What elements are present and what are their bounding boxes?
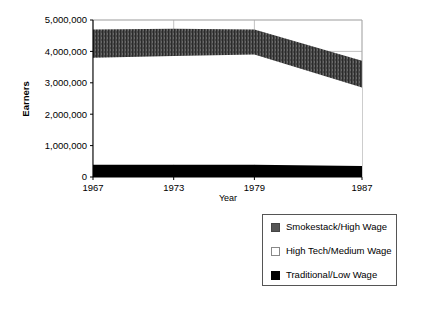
y-tick-label: 1,000,000 <box>45 140 87 151</box>
x-tick-label: 1979 <box>244 182 265 193</box>
legend-label-smokestack: Smokestack/High Wage <box>286 222 387 232</box>
legend-item-high-tech: High Tech/Medium Wage <box>263 239 396 263</box>
x-axis-title: Year <box>219 193 237 203</box>
legend-swatch-traditional-icon <box>271 271 280 280</box>
legend-label-traditional: Traditional/Low Wage <box>286 270 377 280</box>
legend-swatch-smokestack-icon <box>271 223 280 232</box>
y-axis-title: Earners <box>20 81 31 116</box>
chart-legend: Smokestack/High Wage High Tech/Medium Wa… <box>262 214 397 286</box>
legend-item-traditional: Traditional/Low Wage <box>263 263 396 287</box>
y-tick-label: 0 <box>82 171 87 182</box>
band-traditional-low-wage <box>93 165 362 177</box>
y-axis-ticks: 01,000,0002,000,0003,000,0004,000,0005,0… <box>45 14 93 182</box>
x-tick-label: 1987 <box>351 182 372 193</box>
x-tick-label: 1967 <box>82 182 103 193</box>
chart-figure: 01,000,0002,000,0003,000,0004,000,0005,0… <box>0 0 425 310</box>
legend-item-smokestack: Smokestack/High Wage <box>263 215 396 239</box>
y-tick-label: 4,000,000 <box>45 46 87 57</box>
x-axis-ticks: 1967197319791987 <box>82 177 372 193</box>
y-tick-label: 5,000,000 <box>45 14 87 25</box>
legend-label-high-tech: High Tech/Medium Wage <box>286 246 392 256</box>
x-tick-label: 1973 <box>163 182 184 193</box>
data-bands <box>93 29 362 177</box>
legend-swatch-high-tech-icon <box>271 247 280 256</box>
y-tick-label: 2,000,000 <box>45 109 87 120</box>
y-tick-label: 3,000,000 <box>45 77 87 88</box>
